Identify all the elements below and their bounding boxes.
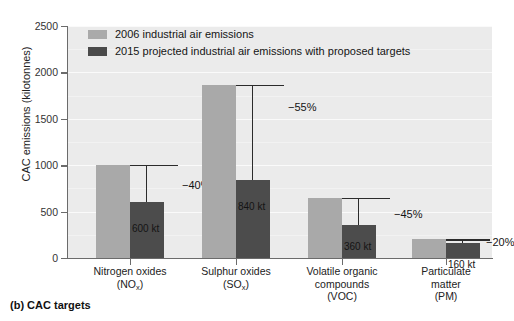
legend: 2006 industrial air emissions 2015 proje… <box>88 28 428 62</box>
legend-swatch-2015-icon <box>88 47 107 56</box>
gridline-2500 <box>68 26 492 27</box>
y-tick-2500 <box>61 26 68 27</box>
y-axis-line <box>67 26 68 259</box>
figure-caption: (b) CAC targets <box>10 299 91 311</box>
x-category-label-particulate-matter: Particulate matter (PM) <box>386 265 506 303</box>
cat-line-2: (SOx) <box>176 278 296 293</box>
cat-line-1: Volatile organic <box>282 265 402 278</box>
y-axis-title: CAC emissions (kilotonnes) <box>20 4 32 224</box>
gridline-750 <box>68 188 492 189</box>
cat-line-1: Nitrogen oxides <box>70 265 190 278</box>
bar-2006-nitrogen-oxides <box>96 165 130 258</box>
reduction-bracket-top-sulphur-oxides <box>236 85 284 86</box>
cat-line-3: (VOC) <box>282 290 402 303</box>
value-label-nitrogen-oxides: 600 kt <box>132 224 159 234</box>
reduction-bracket-top-voc <box>342 198 390 199</box>
legend-swatch-2006-icon <box>88 30 107 39</box>
reduction-pct-voc: −45% <box>394 209 422 220</box>
y-tick-500 <box>61 212 68 213</box>
reduction-bracket-stem-nitrogen-oxides <box>146 165 147 202</box>
gridline-1500 <box>68 119 492 120</box>
gridline-1750 <box>68 96 492 97</box>
x-category-label-voc: Volatile organic compounds (VOC) <box>282 265 402 303</box>
gridline-2000 <box>68 72 492 73</box>
reduction-pct-sulphur-oxides: −55% <box>288 102 316 113</box>
cat-line-1: Sulphur oxides <box>176 265 296 278</box>
legend-item-2015: 2015 projected industrial air emissions … <box>88 45 428 58</box>
cat-line-3: (PM) <box>386 290 506 303</box>
bar-2015-sulphur-oxides <box>236 180 270 258</box>
reduction-bracket-stem-particulate-matter <box>462 239 463 243</box>
x-category-label-sulphur-oxides: Sulphur oxides (SOx) <box>176 265 296 292</box>
reduction-pct-particulate-matter: −20% <box>486 237 514 248</box>
gridline-1250 <box>68 142 492 143</box>
legend-item-2006: 2006 industrial air emissions <box>88 28 428 41</box>
y-tick-1500 <box>61 119 68 120</box>
bar-2006-particulate-matter <box>412 239 446 258</box>
x-category-label-nitrogen-oxides: Nitrogen oxides (NOx) <box>70 265 190 292</box>
y-tick-label-0: 0 <box>18 253 58 264</box>
value-label-voc: 360 kt <box>344 242 371 252</box>
cat-line-1: Particulate <box>386 265 506 278</box>
value-label-sulphur-oxides: 840 kt <box>238 202 265 212</box>
cat-line-2: (NOx) <box>70 278 190 293</box>
y-tick-2000 <box>61 72 68 73</box>
legend-label-2015: 2015 projected industrial air emissions … <box>115 46 410 57</box>
bar-2006-sulphur-oxides <box>202 85 236 259</box>
cat-line-2: compounds <box>282 278 402 291</box>
bar-2015-particulate-matter <box>446 243 480 258</box>
reduction-bracket-top-nitrogen-oxides <box>130 165 178 166</box>
reduction-bracket-stem-sulphur-oxides <box>252 85 253 181</box>
reduction-bracket-top-particulate-matter <box>446 239 490 240</box>
y-tick-1000 <box>61 165 68 166</box>
reduction-bracket-stem-voc <box>358 198 359 225</box>
cat-line-2: matter <box>386 278 506 291</box>
bar-2006-voc <box>308 198 342 258</box>
y-tick-0 <box>61 258 68 259</box>
legend-label-2006: 2006 industrial air emissions <box>115 29 254 40</box>
